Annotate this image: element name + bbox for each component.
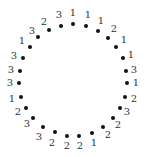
- dot-label: 2: [77, 141, 83, 151]
- circle-dot: [31, 116, 35, 120]
- dot-label: 2: [15, 107, 21, 117]
- circle-dot: [77, 134, 81, 138]
- circle-dot: [71, 22, 75, 26]
- circle-dot: [65, 134, 69, 138]
- circle-dot: [106, 36, 110, 40]
- circle-dot: [123, 95, 127, 99]
- circle-dot: [118, 106, 122, 110]
- dot-label: 3: [131, 65, 137, 75]
- circle-dot: [36, 35, 40, 39]
- dot-label: 1: [91, 138, 97, 148]
- dot-label: 3: [24, 119, 30, 129]
- dot-label: 2: [41, 17, 47, 27]
- dot-label: 3: [7, 78, 13, 88]
- dot-label: 1: [85, 10, 91, 20]
- dot-label: 1: [128, 50, 134, 60]
- dot-label: 2: [64, 141, 70, 151]
- circle-dot: [125, 81, 129, 85]
- circle-dot: [59, 24, 63, 28]
- dot-label: 3: [36, 132, 42, 142]
- circle-dot: [24, 106, 28, 110]
- circle-dot: [47, 28, 51, 32]
- dot-label: 3: [56, 10, 62, 20]
- dot-label: 3: [29, 26, 35, 36]
- dot-label: 3: [8, 65, 14, 75]
- dot-label: 2: [115, 120, 121, 130]
- dot-label: 2: [111, 24, 117, 34]
- dot-label: 1: [19, 36, 25, 46]
- circle-dot: [53, 130, 57, 134]
- circle-dot: [121, 56, 125, 60]
- dot-label: 1: [98, 16, 104, 26]
- circle-dot: [90, 131, 94, 135]
- dot-label: 1: [9, 94, 15, 104]
- dot-label: 1: [121, 35, 127, 45]
- circle-dot: [114, 45, 118, 49]
- dot-label: 1: [133, 78, 139, 88]
- circle-dot: [96, 29, 100, 33]
- circle-dot: [84, 24, 88, 28]
- circle-dot: [18, 69, 22, 73]
- dot-label: 2: [49, 138, 55, 148]
- circle-dot: [124, 69, 128, 73]
- dot-label: 3: [124, 107, 130, 117]
- circle-dot: [19, 95, 23, 99]
- dot-label: 2: [131, 94, 137, 104]
- dot-label: 1: [70, 8, 76, 18]
- circle-dot: [28, 45, 32, 49]
- circle-dot: [17, 81, 21, 85]
- dot-label: 2: [105, 130, 111, 140]
- circular-number-diagram: 111211312322122233213331323: [0, 0, 150, 157]
- dot-label: 3: [11, 51, 17, 61]
- circle-dot: [41, 125, 45, 129]
- circle-dot: [21, 56, 25, 60]
